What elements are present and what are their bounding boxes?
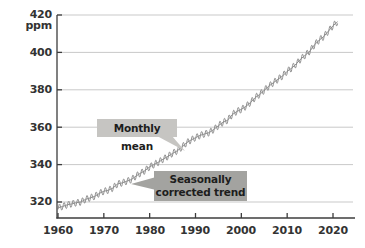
co2-concentration-chart: 420 ppm 400 380 360 340 320 1960 1970 19… xyxy=(0,0,365,248)
x-tick-label-2020: 2020 xyxy=(311,224,355,237)
x-tick-label-2000: 2000 xyxy=(219,224,263,237)
x-tick-label-1990: 1990 xyxy=(173,224,217,237)
annotation-monthly-mean-tail xyxy=(157,136,185,151)
x-tick-label-1970: 1970 xyxy=(82,224,126,237)
x-tick-label-1980: 1980 xyxy=(128,224,172,237)
y-tick-label-360: 360 xyxy=(0,122,52,133)
y-tick-label-400: 400 xyxy=(0,47,52,58)
annotation-seasonally-corrected-trend-label: Seasonally corrected trend xyxy=(156,173,246,198)
y-tick-label-380: 380 xyxy=(0,84,52,95)
annotation-seasonally-corrected-trend: Seasonally corrected trend xyxy=(154,171,247,201)
y-tick-label-420ppm: 420 ppm xyxy=(0,9,52,31)
x-tick-label-1960: 1960 xyxy=(36,224,80,237)
plot-canvas xyxy=(0,0,365,248)
x-tick-label-2010: 2010 xyxy=(265,224,309,237)
y-tick-label-340: 340 xyxy=(0,159,52,170)
y-tick-label-320: 320 xyxy=(0,196,52,207)
annotation-monthly-mean: Monthly mean xyxy=(97,119,177,137)
